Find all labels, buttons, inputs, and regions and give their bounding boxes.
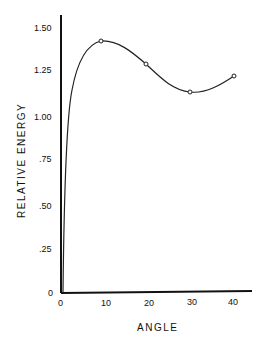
y-tick-label: 1.25	[34, 65, 52, 75]
x-tick-label: 10	[101, 298, 111, 308]
x-tick-label: 30	[187, 297, 197, 307]
y-tick-label: .75	[39, 154, 52, 164]
y-tick-label: 1.00	[34, 112, 52, 122]
y-tick-label: 1.50	[34, 23, 52, 33]
y-axis-label: RELATIVE ENERGY	[16, 103, 27, 218]
x-axis-label: ANGLE	[137, 322, 178, 333]
y-tick-label: .50	[39, 201, 52, 211]
y-tick-label: 0	[48, 288, 53, 298]
x-axis	[61, 291, 252, 293]
x-tick-label: 20	[144, 298, 154, 308]
energy-curve	[63, 41, 234, 292]
data-point	[99, 39, 103, 43]
chart: 1.50 1.25 1.00 .75 .50 .25 0 0 10 20 30 …	[0, 0, 261, 347]
data-point	[144, 62, 148, 66]
data-point	[232, 74, 236, 78]
y-tick-label: .25	[39, 244, 52, 254]
x-tick-label: 0	[58, 298, 63, 308]
data-point	[188, 90, 192, 94]
x-tick-label: 40	[228, 297, 238, 307]
